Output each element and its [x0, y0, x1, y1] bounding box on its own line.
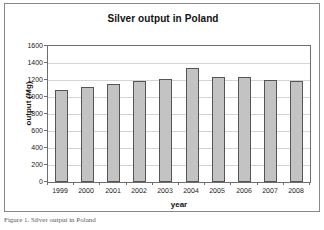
y-axis-tick-label: 1400 [11, 59, 43, 66]
bar [264, 80, 277, 182]
bar [238, 77, 251, 182]
x-axis-tick-mark [47, 182, 48, 185]
chart-title: Silver output in Poland [5, 13, 321, 24]
bar [186, 68, 199, 182]
bar [81, 87, 94, 182]
gridline [48, 63, 310, 64]
x-axis-tick-label: 2008 [282, 187, 310, 195]
x-axis-tick-label: 2003 [151, 187, 179, 195]
chart-frame: Silver output in Poland output (Mg) 0200… [4, 3, 320, 212]
bar [159, 79, 172, 182]
x-axis-title: year [47, 200, 311, 209]
x-axis-tick-label: 2006 [229, 187, 257, 195]
x-axis-tick-mark [178, 182, 179, 185]
x-axis-tick-label: 1999 [46, 187, 74, 195]
plot-area [47, 45, 311, 183]
y-axis-tick-label: 0 [11, 178, 43, 185]
x-axis-tick-mark [126, 182, 127, 185]
x-axis-tick-label: 2005 [203, 187, 231, 195]
x-axis-tick-mark [152, 182, 153, 185]
figure-caption: Figure 1. Silver output in Poland [4, 216, 320, 224]
y-axis-tick-label: 1600 [11, 42, 43, 49]
x-axis-tick-label: 2007 [256, 187, 284, 195]
figure-container: Silver output in Poland output (Mg) 0200… [0, 0, 324, 230]
y-axis-tick-label: 1000 [11, 93, 43, 100]
x-axis-tick-label: 2002 [125, 187, 153, 195]
x-axis-tick-mark [283, 182, 284, 185]
x-axis-tick-mark [73, 182, 74, 185]
x-axis-tick-mark [204, 182, 205, 185]
x-axis-tick-mark [99, 182, 100, 185]
x-axis-tick-mark [257, 182, 258, 185]
x-axis-tick-label: 2001 [98, 187, 126, 195]
y-axis-tick-label: 1200 [11, 76, 43, 83]
bar [290, 81, 303, 182]
y-axis-tick-label: 400 [11, 144, 43, 151]
y-axis-tick-label: 200 [11, 161, 43, 168]
x-axis-tick-label: 2000 [72, 187, 100, 195]
x-axis-tick-mark [309, 182, 310, 185]
y-axis-tick-label: 800 [11, 110, 43, 117]
x-axis-tick-mark [230, 182, 231, 185]
bar [212, 77, 225, 182]
y-axis-tick-label: 600 [11, 127, 43, 134]
bar [55, 90, 68, 182]
bar [107, 84, 120, 182]
x-axis-tick-label: 2004 [177, 187, 205, 195]
bar [133, 81, 146, 182]
